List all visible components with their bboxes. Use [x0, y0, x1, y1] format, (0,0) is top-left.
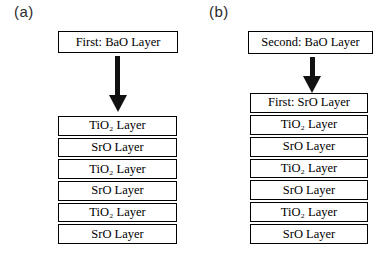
- panel-b-layer-stack: First: SrO Layer TiO₂ Layer SrO Layer Ti…: [250, 93, 368, 244]
- panel-b-label: (b): [209, 3, 229, 20]
- layer-row: SrO Layer: [58, 224, 177, 244]
- layer-row: TiO₂ Layer: [250, 115, 368, 135]
- layer-row: SrO Layer: [58, 181, 177, 201]
- panel-a-layer-stack: TiO₂ Layer SrO Layer TiO₂ Layer SrO Laye…: [58, 116, 177, 244]
- panel-a-down-arrow-head-icon: [109, 95, 127, 112]
- panel-a-down-arrow-icon: [115, 56, 120, 96]
- layer-row: First: SrO Layer: [250, 93, 368, 113]
- layer-row: TiO₂ Layer: [58, 203, 177, 223]
- panel-a-label: (a): [14, 3, 34, 20]
- layer-row: SrO Layer: [250, 224, 368, 244]
- layer-row: TiO₂ Layer: [250, 202, 368, 222]
- panel-a-source-layer-box: First: BaO Layer: [58, 31, 178, 53]
- panel-b-down-arrow-icon: [310, 57, 315, 77]
- layer-row: TiO₂ Layer: [58, 116, 177, 136]
- layer-row: SrO Layer: [250, 137, 368, 157]
- layer-row: SrO Layer: [250, 180, 368, 200]
- layer-row: SrO Layer: [58, 138, 177, 158]
- figure-canvas: (a) First: BaO Layer TiO₂ Layer SrO Laye…: [0, 0, 390, 256]
- layer-row: TiO₂ Layer: [250, 159, 368, 179]
- panel-b-down-arrow-head-icon: [303, 76, 321, 93]
- panel-b-source-layer-box: Second: BaO Layer: [248, 31, 373, 54]
- layer-row: TiO₂ Layer: [58, 159, 177, 179]
